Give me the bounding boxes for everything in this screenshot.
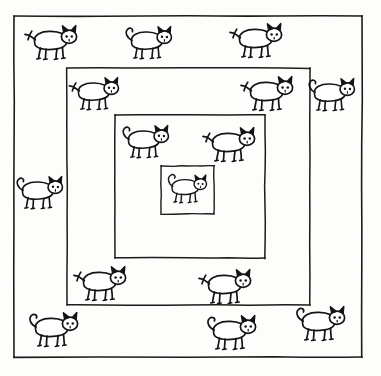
cat-paw-4 — [267, 56, 271, 57]
cat-paw-3 — [147, 157, 150, 158]
cat-leg-4 — [331, 328, 332, 339]
cat-paw-4 — [62, 58, 66, 59]
cat-leg-2 — [325, 101, 326, 111]
cat-paw-1 — [317, 110, 320, 111]
cat-leg-4 — [341, 99, 342, 109]
cat-eye-right — [57, 186, 59, 188]
cat-leg-3 — [324, 330, 325, 340]
cat-eye-right — [71, 35, 74, 38]
cat-leg-4 — [155, 146, 156, 156]
cat-paw-2 — [93, 300, 97, 301]
inner-frame-side-0 — [161, 166, 214, 167]
cat-paw-3 — [97, 109, 100, 110]
cat-paw-4 — [240, 160, 244, 161]
cat-paw-2 — [137, 157, 140, 158]
cat-paw-3 — [41, 208, 44, 209]
cat-leg-3 — [272, 100, 273, 110]
cat-leg-4 — [63, 47, 64, 58]
cat-paw-3 — [103, 300, 107, 301]
cat-leg-4 — [49, 197, 50, 207]
cat-paw-3 — [54, 59, 58, 60]
cat-eye-left — [333, 316, 336, 319]
cat-eye-left — [197, 183, 199, 185]
cat-leg-3 — [261, 47, 262, 57]
cat-leg-3 — [57, 336, 58, 346]
cat-paw-1 — [215, 160, 219, 161]
cat-leg-2 — [181, 194, 182, 202]
cat-paw-3 — [322, 340, 326, 341]
cat-leg-2 — [142, 49, 143, 59]
cat-eye-right — [113, 87, 115, 89]
cat-paw-4 — [278, 109, 282, 110]
cat-leg-3 — [190, 194, 191, 203]
cat-leg-2 — [33, 199, 34, 209]
cat-eye-left — [158, 135, 160, 137]
cat-leg-4 — [242, 337, 243, 348]
cat-leg-2 — [46, 336, 47, 346]
cat-paw-4 — [236, 302, 240, 303]
cat-paw-1 — [81, 109, 84, 110]
cat-paw-1 — [134, 58, 137, 59]
inner-frame-side-1 — [214, 166, 215, 214]
cat-paw-2 — [218, 303, 222, 304]
cat-paw-4 — [157, 57, 160, 58]
cat-paw-4 — [63, 345, 67, 346]
cat-leg-3 — [99, 99, 100, 109]
cat-paw-4 — [241, 348, 245, 349]
cat-leg-4 — [268, 45, 269, 56]
outer-frame-side-3 — [14, 16, 15, 357]
cat-paw-1 — [216, 348, 220, 349]
cat-paw-2 — [260, 110, 264, 111]
outer-frame-side-2 — [14, 357, 362, 358]
cat-leg-3 — [56, 49, 57, 59]
cat-paw-3 — [150, 58, 153, 59]
cat-leg-3 — [335, 100, 336, 110]
cat-paw-4 — [154, 156, 157, 157]
cat-leg-4 — [105, 98, 106, 108]
cat-paw-3 — [228, 303, 232, 304]
cat-paw-3 — [232, 161, 236, 162]
cat-paw-1 — [38, 345, 42, 346]
cat-eye-right — [287, 86, 290, 89]
cat-eye-left — [66, 322, 69, 325]
cat-eye-left — [114, 276, 117, 279]
cat-paw-2 — [87, 109, 90, 110]
illustration-canvas — [0, 0, 381, 376]
cat-eye-right — [120, 276, 123, 279]
cat-leg-2 — [89, 100, 90, 110]
cat-paw-2 — [45, 346, 49, 347]
cat-eye-right — [72, 322, 75, 325]
cat-eye-right — [249, 137, 252, 140]
cat-paw-4 — [340, 109, 343, 110]
cat-leg-4 — [158, 47, 159, 57]
cat-leg-2 — [139, 148, 140, 158]
cat-paw-3 — [333, 110, 336, 111]
cat-leg-2 — [94, 290, 95, 300]
outer-frame-side-1 — [362, 16, 363, 357]
cat-paw-3 — [259, 57, 263, 58]
cat-eye-right — [339, 316, 342, 319]
cat-paw-3 — [233, 349, 237, 350]
cat-paw-1 — [211, 302, 215, 303]
cat-paw-1 — [37, 58, 41, 59]
cat-leg-4 — [279, 98, 280, 109]
cat-leg-3 — [149, 147, 150, 157]
cat-eye-left — [270, 33, 273, 36]
cat-paw-2 — [44, 59, 48, 60]
cat-leg-2 — [45, 49, 46, 59]
cat-paw-1 — [253, 109, 257, 110]
cat-leg-2 — [223, 151, 224, 161]
cat-leg-2 — [313, 330, 314, 340]
cat-paw-2 — [140, 58, 143, 59]
cat-eye-left — [108, 87, 110, 89]
cat-paw-3 — [55, 346, 59, 347]
cat-leg-3 — [230, 293, 231, 303]
cat-eye-left — [344, 88, 346, 90]
cat-leg-2 — [224, 339, 225, 349]
cat-paw-4 — [111, 299, 115, 300]
cat-leg-4 — [241, 149, 242, 160]
cat-paw-2 — [31, 208, 34, 209]
cat-eye-right — [349, 88, 351, 90]
cat-eye-left — [52, 186, 54, 188]
second-frame-side-3 — [67, 68, 68, 305]
